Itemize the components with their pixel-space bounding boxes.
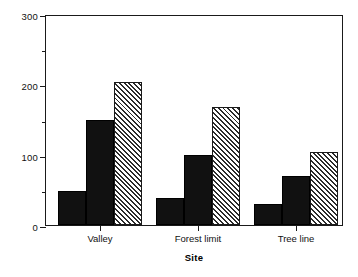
x-tick-forest-limit [198,225,199,231]
bar-forest-limit-series-2 [184,155,212,225]
bar-forest-limit-series-3 [212,107,240,225]
y-tick-label-200: 200 [22,81,38,92]
x-tick-label-forest-limit: Forest limit [175,233,221,244]
y-tick-label-300: 300 [22,11,38,22]
bar-valley-series-1 [58,191,86,225]
y-tick-0 [40,227,46,228]
y-tick-100 [40,157,46,158]
bar-tree-line-series-3 [310,152,338,225]
y-tick-minor-150 [42,122,46,123]
y-tick-minor-250 [42,51,46,52]
bar-valley-series-2 [86,120,114,226]
plot-area: 0 100 200 300 Valley Forest limit Tree l… [45,15,343,226]
bar-valley-series-3 [114,82,142,226]
x-axis-title: Site [45,252,343,263]
y-tick-minor-50 [42,192,46,193]
x-tick-label-tree-line: Tree line [278,233,315,244]
x-tick-label-valley: Valley [87,233,112,244]
x-tick-tree-line [296,225,297,231]
y-tick-300 [40,16,46,17]
bar-tree-line-series-1 [254,204,282,225]
bar-forest-limit-series-1 [156,198,184,225]
bar-chart: 0 100 200 300 Valley Forest limit Tree l… [0,0,358,277]
x-tick-valley [100,225,101,231]
y-tick-200 [40,86,46,87]
y-tick-label-0: 0 [33,222,38,233]
bar-tree-line-series-2 [282,176,310,225]
y-tick-label-100: 100 [22,151,38,162]
